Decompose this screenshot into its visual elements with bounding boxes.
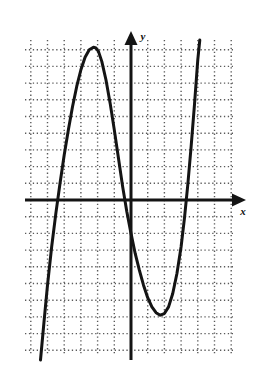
cubic-graph-svg: x y	[0, 0, 254, 375]
y-axis-label: y	[139, 30, 146, 42]
x-axis-label: x	[239, 205, 246, 217]
graph-figure: x y	[0, 0, 254, 375]
figure-background	[0, 0, 254, 375]
